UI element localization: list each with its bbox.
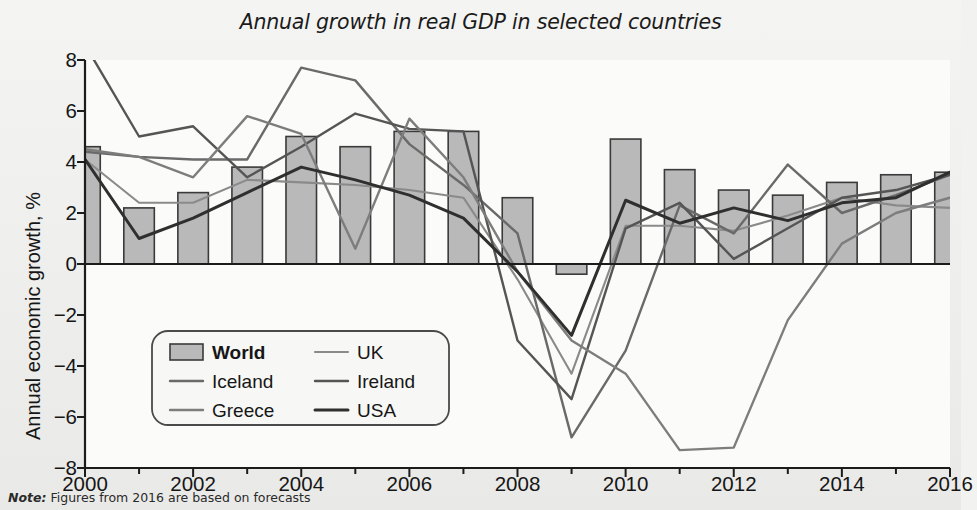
bar-world	[556, 264, 587, 274]
figure-note: Note: Figures from 2016 are based on for…	[8, 490, 311, 505]
chart-legend: WorldUKIcelandIrelandGreeceUSA	[152, 331, 449, 425]
legend-label: USA	[357, 400, 396, 421]
legend-label: Iceland	[212, 371, 273, 392]
bar-world	[232, 167, 263, 264]
note-prefix: Note:	[8, 490, 47, 505]
legend-swatch-world	[170, 344, 203, 360]
note-text: Figures from 2016 are based on forecasts	[47, 490, 311, 505]
legend-label: World	[212, 342, 265, 363]
legend-label: UK	[357, 342, 384, 363]
bar-world	[935, 172, 961, 264]
bar-world	[827, 182, 858, 264]
legend-label: Greece	[212, 400, 274, 421]
legend-item[interactable]: World	[170, 342, 265, 363]
bar-world	[664, 170, 695, 264]
legend-label: Ireland	[357, 371, 415, 392]
